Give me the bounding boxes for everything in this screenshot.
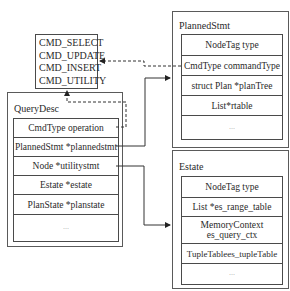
dashed-link-commandtype-to-cmdtype xyxy=(100,61,181,66)
link-plannedstmt-to-plannedstmt xyxy=(116,78,170,146)
link-utilitystmt-to-estate xyxy=(116,166,170,225)
dashed-link-operation-to-cmdtype xyxy=(67,91,126,127)
connector-lines xyxy=(0,0,290,291)
